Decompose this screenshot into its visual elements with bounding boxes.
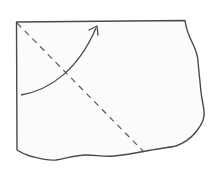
diagram-svg <box>0 0 215 172</box>
paper-sheet <box>17 21 205 161</box>
fold-diagram <box>0 0 215 172</box>
